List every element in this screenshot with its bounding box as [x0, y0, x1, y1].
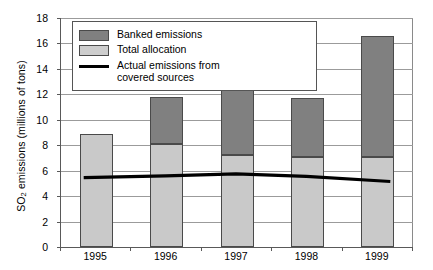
- y-axis-tick-label: 16: [22, 38, 48, 48]
- y-axis-tick-label: 0: [22, 242, 48, 252]
- x-axis-tick-label: 1998: [295, 250, 318, 262]
- legend-item-banked-emissions: Banked emissions: [79, 28, 310, 42]
- y-axis-tick-label: 12: [22, 89, 48, 99]
- legend-line-actual-emissions-icon: [79, 61, 109, 72]
- y-axis-tick-label: 6: [22, 166, 48, 176]
- y-axis-tick-label: 18: [22, 13, 48, 23]
- y-axis-tick-label: 10: [22, 115, 48, 125]
- legend-label-actual-emissions: Actual emissions from covered sources: [117, 59, 220, 84]
- plot-frame-right-border: [412, 18, 413, 247]
- legend-label-total-allocation: Total allocation: [117, 43, 186, 56]
- legend-label-banked-emissions: Banked emissions: [117, 28, 202, 41]
- y-axis-tick-labels: 024681012141618: [22, 0, 48, 270]
- actual-emissions-polyline: [84, 174, 391, 182]
- so2-emissions-chart: SO2 emissions (millions of tons) 0246810…: [0, 0, 433, 270]
- x-axis-tick-label: 1997: [224, 250, 247, 262]
- y-axis-tick-label: 2: [22, 217, 48, 227]
- y-axis-tick-label: 14: [22, 64, 48, 74]
- x-axis-tick-label: 1999: [365, 250, 388, 262]
- legend-swatch-banked-emissions-icon: [79, 30, 109, 41]
- legend-swatch-total-allocation-icon: [79, 45, 109, 56]
- chart-legend: Banked emissions Total allocation Actual…: [72, 21, 317, 91]
- x-axis-tick-label: 1995: [84, 250, 107, 262]
- legend-item-actual-emissions: Actual emissions from covered sources: [79, 59, 310, 84]
- y-axis-tick-label: 4: [22, 191, 48, 201]
- x-axis-tick-mark: [412, 247, 413, 251]
- x-axis-tick-label: 1996: [154, 250, 177, 262]
- y-axis-tick-label: 8: [22, 140, 48, 150]
- x-axis-tick-labels: 19951996199719981999: [60, 250, 412, 268]
- legend-item-total-allocation: Total allocation: [79, 43, 310, 57]
